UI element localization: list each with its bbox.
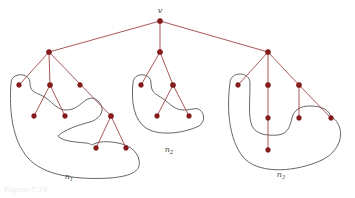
vertex-n1-a1: [17, 83, 22, 88]
vertex-n3-c6: [329, 116, 334, 121]
vertex-n2-b0: [157, 49, 162, 54]
vertex-n3-c1: [236, 83, 241, 88]
edge-n1-a2-a5: [50, 85, 65, 116]
edge-n2-b2-b4: [173, 85, 189, 116]
curve-n1-inner: [11, 75, 102, 136]
edge-v-n3: [160, 21, 268, 52]
curve-n1-outer: [10, 83, 139, 178]
edge-n2-b0-b2: [160, 52, 173, 85]
subtree-label-n2: n2: [165, 145, 174, 155]
curve-n2-inner: [133, 75, 204, 126]
edge-n3-c3-c6: [299, 85, 331, 118]
vertex-n3-c3: [296, 82, 301, 87]
vertex-n2-b4: [187, 114, 192, 119]
curve-n2-outer: [132, 83, 199, 133]
vertex-n3-c5: [297, 116, 302, 121]
vertex-n3-c7: [266, 148, 271, 153]
edge-v-n1: [49, 21, 160, 52]
edge-n2-b2-b3: [157, 85, 173, 116]
vertex-n1-a4: [32, 114, 37, 119]
vertex-n1-a2: [47, 82, 52, 87]
curve-n3-inner: [230, 74, 331, 135]
vertex-n3-c0: [265, 49, 270, 54]
curve-n3-outer: [229, 83, 341, 170]
diagram-labels: v n1 n2 n3: [65, 6, 286, 182]
vertex-root-v: [157, 18, 162, 23]
vertex-n2-b2: [170, 82, 175, 87]
vertex-n2-b3: [155, 114, 160, 119]
vertex-n1-a7: [94, 146, 99, 151]
vertex-n2-b1: [139, 83, 144, 88]
vertex-n1-a6: [108, 113, 113, 118]
edge-n3-c0-c3: [268, 52, 299, 85]
vertex-n3-c4: [266, 116, 271, 121]
subtree-label-n1-sub: 1: [70, 176, 74, 182]
edge-n1-a6-a7: [96, 116, 111, 148]
vertex-n1-a5: [63, 114, 68, 119]
curve-n1-link: [58, 136, 92, 145]
figure-caption: Figure 7.16: [4, 186, 48, 194]
subtree-label-n2-sub: 2: [169, 149, 174, 155]
subtree-label-n3-sub: 3: [282, 174, 286, 180]
edge-n1-a0-a1: [19, 52, 49, 85]
root-label-v: v: [158, 6, 163, 15]
vertex-n1-a0: [46, 49, 51, 54]
vertex-n3-c2: [265, 82, 270, 87]
edge-n1-a2-a4: [34, 85, 50, 116]
tree-diagram-svg: v n1 n2 n3: [0, 0, 355, 198]
edge-n3-c0-c1: [238, 52, 268, 85]
subtree-label-n3: n3: [277, 170, 286, 180]
figure-container: v n1 n2 n3 Figure 7.16: [0, 0, 355, 198]
vertex-n1-a8: [124, 146, 129, 151]
edge-n1-a0-a2: [49, 52, 50, 85]
vertex-n1-a3: [78, 83, 83, 88]
subtree-label-n1: n1: [65, 172, 74, 182]
